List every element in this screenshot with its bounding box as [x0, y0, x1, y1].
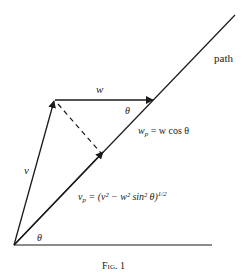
figure-caption: Fig. 1 — [102, 260, 125, 271]
vp-equation: vp = (v² − w² sin² θ)1/2 — [78, 190, 167, 204]
w-label: w — [96, 83, 104, 95]
vector-diagram: path w θ v θ wp = w cos θ vp = (v² − w² … — [0, 0, 249, 274]
dashed-projection — [58, 104, 101, 153]
path-label: path — [214, 52, 233, 64]
theta-top-label: θ — [125, 105, 130, 116]
v-label: v — [24, 164, 29, 176]
theta-bottom-label: θ — [37, 232, 42, 243]
wp-equation: wp = w cos θ — [138, 125, 189, 138]
